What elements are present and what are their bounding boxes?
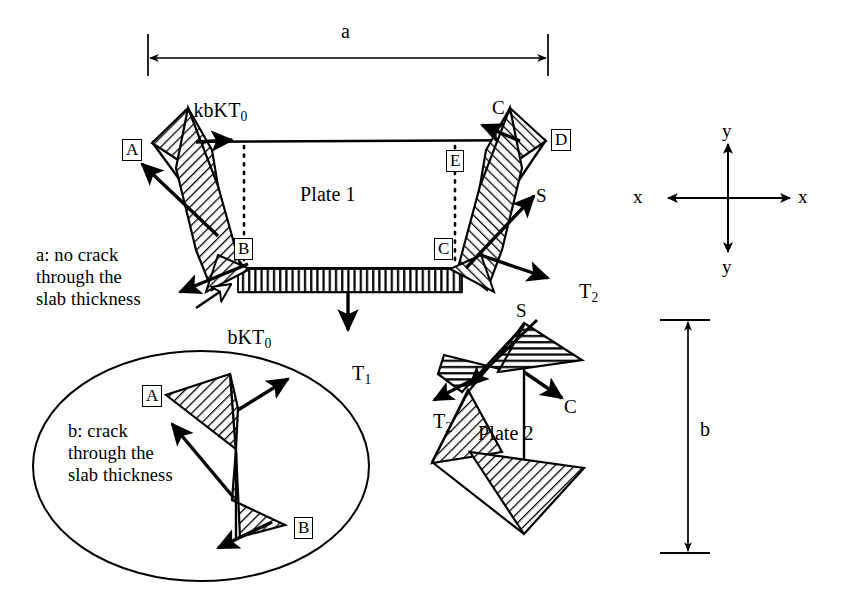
axis-label-x-left: x (633, 186, 643, 208)
force-label-C-plate1: C (492, 97, 505, 119)
force-label-T1-base: T (352, 362, 364, 384)
force-label-kbKT0-sub: 0 (240, 108, 247, 123)
force-label-S-plate1: S (536, 185, 547, 207)
force-label-bKT0-base: bKT (227, 326, 264, 348)
force-label-bKT0: bKT0 (207, 302, 271, 375)
inset-crack-wedge (166, 374, 288, 548)
caption-case-b: b: crack through the slab thickness (68, 421, 173, 486)
axes-cross (668, 144, 790, 252)
node-label-A: A (122, 139, 142, 161)
force-label-T2-plate2-base: T (433, 410, 445, 432)
dimension-b-label: b (700, 418, 710, 442)
caption-case-a: a: no crack through the slab thickness (36, 245, 141, 310)
force-label-bKT0-sub: 0 (264, 335, 271, 350)
plate2-label: Plate 2 (478, 422, 534, 446)
force-label-C-plate2: C (564, 396, 577, 418)
force-label-T2-plate1-sub: 2 (591, 289, 598, 304)
force-label-T2-plate1: T2 (559, 256, 598, 329)
node-label-B: B (234, 238, 253, 260)
force-label-S-plate2: S (516, 300, 527, 322)
axis-label-x-right: x (798, 186, 808, 208)
force-label-T1-sub: 1 (364, 371, 371, 386)
force-label-T2-plate2-sub: 2 (445, 419, 452, 434)
node-label-C: C (434, 238, 453, 260)
inset-node-label-B: B (294, 517, 313, 539)
plate1-label: Plate 1 (300, 183, 356, 207)
slab-hatched-bar (238, 269, 462, 292)
force-label-T1: T1 (332, 338, 371, 411)
axis-label-y-bottom: y (722, 256, 732, 278)
node-label-D: D (551, 129, 571, 151)
force-label-T2-plate2: T2 (413, 386, 452, 459)
force-label-kbKT0-base: kbKT (193, 99, 240, 121)
axis-label-y-top: y (722, 120, 732, 142)
force-label-kbKT0: kbKT0 (173, 75, 247, 148)
force-label-T2-plate1-base: T (579, 280, 591, 302)
inset-node-label-A: A (142, 385, 162, 407)
figure-canvas: a b x x y y Plate 1 Plate 2 A B C D E C … (0, 0, 850, 610)
dimension-a-label: a (341, 20, 350, 44)
node-label-E: E (446, 150, 464, 172)
